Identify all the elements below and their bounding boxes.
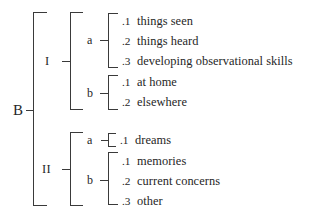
group-i-b-connector-tick — [100, 93, 108, 94]
item-number: .2 — [122, 36, 137, 47]
item-text: developing observational skills — [137, 54, 293, 68]
item-number: .1 — [122, 16, 137, 27]
item-text: things seen — [137, 14, 193, 28]
item-number: .3 — [122, 196, 137, 207]
list-item: .3other — [122, 195, 163, 207]
item-text: elsewhere — [137, 95, 187, 109]
root-node-label: B — [13, 103, 23, 118]
branch-i-connector-tick — [62, 61, 70, 62]
group-label-i-b: b — [87, 87, 93, 99]
group-ii-b-bracket — [108, 152, 118, 205]
branch-label-ii: II — [42, 163, 51, 176]
item-number: .1 — [122, 77, 137, 88]
list-item: .2things heard — [122, 35, 199, 47]
item-number: .1 — [122, 156, 137, 167]
item-text: dreams — [135, 133, 171, 147]
list-item: .2elsewhere — [122, 96, 187, 108]
group-i-a-connector-tick — [100, 40, 108, 41]
list-item: .1things seen — [122, 15, 193, 27]
item-number: .1 — [120, 135, 135, 146]
root-connector-tick — [26, 110, 33, 111]
item-text: current concerns — [137, 174, 220, 188]
group-ii-a-connector-tick — [101, 140, 108, 141]
branch-ii-bracket — [70, 132, 83, 206]
list-item: .1at home — [122, 76, 177, 88]
group-ii-a-bracket — [108, 133, 116, 147]
group-label-ii-b: b — [87, 174, 93, 186]
group-i-b-bracket — [108, 75, 118, 110]
branch-label-i: I — [45, 55, 50, 68]
item-text: memories — [137, 154, 186, 168]
list-item: .1dreams — [120, 134, 171, 146]
list-item: .2current concerns — [122, 175, 220, 187]
item-number: .3 — [122, 56, 137, 67]
diagram-canvas: B I a .1things seen .2things heard .3dev… — [0, 0, 320, 224]
item-number: .2 — [122, 97, 137, 108]
root-bracket — [33, 12, 47, 206]
list-item: .3developing observational skills — [122, 55, 293, 67]
item-number: .2 — [122, 176, 137, 187]
group-label-i-a: a — [87, 34, 92, 46]
group-ii-b-connector-tick — [100, 180, 108, 181]
list-item: .1memories — [122, 155, 186, 167]
branch-ii-connector-tick — [62, 169, 70, 170]
group-i-a-bracket — [108, 13, 118, 68]
item-text: other — [137, 194, 163, 208]
item-text: things heard — [137, 34, 199, 48]
group-label-ii-a: a — [87, 134, 92, 146]
item-text: at home — [137, 75, 177, 89]
branch-i-bracket — [70, 12, 83, 110]
